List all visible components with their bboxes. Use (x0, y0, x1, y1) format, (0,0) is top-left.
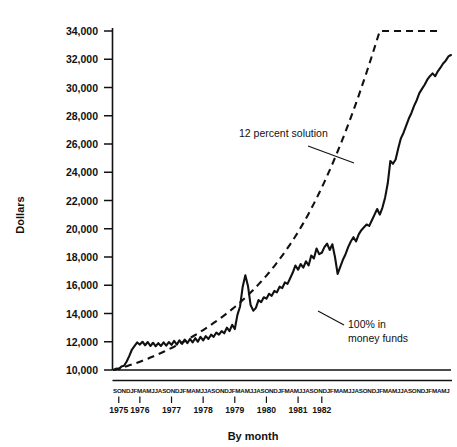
annotation-money-funds-line1: 100% in (348, 318, 386, 330)
x-axis-month-letters: SONDJFMAMJJASONDJFMAMJJASONDJFMAMJJASOND… (113, 387, 450, 394)
y-tick-label: 18,000 (66, 251, 98, 263)
x-axis-year-label: 1977 (162, 405, 181, 415)
y-tick-label: 28,000 (66, 110, 98, 122)
chart-figure: 34,000 32,000 30,000 28,000 26,000 24,00… (0, 0, 457, 447)
y-tick-label: 14,000 (66, 308, 98, 320)
x-axis-year-label: 1981 (289, 405, 308, 415)
plot-series-group (114, 31, 452, 370)
y-tick-label: 22,000 (66, 195, 98, 207)
series-twelve-percent-line (114, 55, 452, 370)
annotation-leader-line-twelve-percent (308, 146, 354, 163)
y-tick-label: 20,000 (66, 223, 98, 235)
y-tick-label: 26,000 (66, 138, 98, 150)
y-tick-label: 10,000 (66, 364, 98, 376)
annotation-money-funds-line2: money funds (348, 332, 408, 344)
x-axis-year-label: 1979 (225, 405, 244, 415)
x-axis-year-label: 1978 (194, 405, 213, 415)
x-axis-year-labels: 19751976197719781979198019811982 (109, 405, 331, 415)
annotation-twelve-percent-solution: 12 percent solution (239, 127, 328, 139)
x-axis-year-label: 1982 (312, 405, 331, 415)
y-tick-label: 16,000 (66, 279, 98, 291)
x-axis-year-ticks (119, 397, 322, 404)
x-axis-year-label: 1976 (130, 405, 149, 415)
x-axis-year-label: 1980 (257, 405, 276, 415)
y-tick-label: 12,000 (66, 336, 98, 348)
y-axis-ticks (104, 31, 113, 370)
y-tick-label: 24,000 (66, 166, 98, 178)
y-tick-label: 30,000 (66, 82, 98, 94)
y-tick-label: 32,000 (66, 53, 98, 65)
series-money-funds-line (114, 31, 441, 370)
annotation-leader-line-money-funds (318, 311, 344, 325)
y-tick-label: 34,000 (66, 25, 98, 37)
y-axis-title: Dollars (14, 196, 26, 233)
x-axis-title: By month (228, 430, 279, 442)
y-axis-tick-labels: 34,000 32,000 30,000 28,000 26,000 24,00… (66, 25, 98, 376)
x-axis-year-label: 1975 (109, 405, 128, 415)
